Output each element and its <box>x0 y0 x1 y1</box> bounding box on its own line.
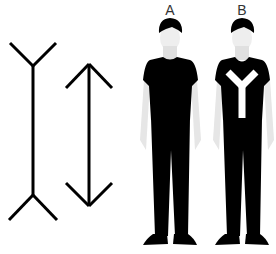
diagram-svg <box>0 0 276 254</box>
person-a <box>140 18 201 245</box>
person-a-label: A <box>160 2 180 18</box>
muller-lyer-diagram: A B <box>0 0 276 254</box>
person-b-label: B <box>232 2 252 18</box>
arrow-line <box>66 64 112 206</box>
fins-out-line <box>9 43 57 220</box>
person-b <box>213 18 274 245</box>
